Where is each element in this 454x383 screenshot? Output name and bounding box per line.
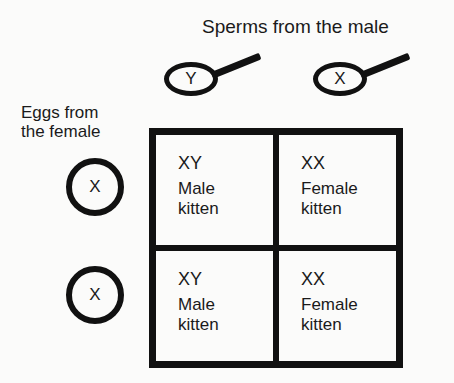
- sex: Male: [178, 179, 273, 199]
- genotype: XX: [301, 269, 396, 289]
- sex: Female: [301, 179, 396, 199]
- eggs-label-line-2: the female: [21, 122, 100, 141]
- punnett-cell: XY Male kitten: [156, 251, 273, 361]
- sperms-title: Sperms from the male: [202, 16, 389, 38]
- genotype: XY: [178, 269, 273, 289]
- egg-label: X: [89, 177, 100, 197]
- genotype: XY: [178, 153, 273, 173]
- egg-x-bottom: X: [66, 266, 124, 324]
- egg-x-top: X: [66, 158, 124, 216]
- kind: kitten: [178, 199, 273, 219]
- sperm-label: X: [334, 69, 345, 89]
- sperm-tail-icon: [211, 53, 262, 79]
- sperm-head-icon: Y: [164, 62, 218, 96]
- kind: kitten: [301, 315, 396, 335]
- eggs-label: Eggs from the female: [21, 103, 100, 141]
- sperm-head-icon: X: [313, 62, 367, 96]
- sex: Female: [301, 295, 396, 315]
- egg-label: X: [89, 285, 100, 305]
- punnett-cell: XY Male kitten: [156, 135, 273, 245]
- sperm-tail-icon: [360, 53, 411, 79]
- punnett-square: XY Male kitten XX Female kitten XY Male …: [149, 128, 403, 368]
- punnett-cell: XX Female kitten: [279, 251, 396, 361]
- sperm-label: Y: [185, 69, 196, 89]
- punnett-cell: XX Female kitten: [279, 135, 396, 245]
- kind: kitten: [178, 315, 273, 335]
- kind: kitten: [301, 199, 396, 219]
- eggs-label-line-1: Eggs from: [21, 103, 100, 122]
- sex: Male: [178, 295, 273, 315]
- genotype: XX: [301, 153, 396, 173]
